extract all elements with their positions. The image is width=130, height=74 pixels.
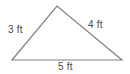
- side-label-right: 4 ft: [88, 19, 103, 30]
- triangle-figure: 3 ft 4 ft 5 ft: [0, 0, 130, 74]
- side-label-base: 5 ft: [58, 61, 73, 72]
- triangle-outline: [12, 6, 122, 60]
- side-label-left: 3 ft: [8, 24, 23, 35]
